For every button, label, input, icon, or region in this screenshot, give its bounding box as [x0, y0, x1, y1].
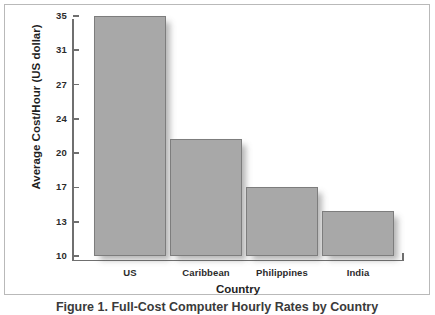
y-axis-tick	[73, 49, 79, 51]
figure-root: 3531272420171310 USCaribbeanPhilippinesI…	[0, 0, 435, 315]
y-axis-tick-label-text: 35	[39, 10, 67, 21]
y-axis-tick-label-text: 20	[39, 147, 67, 158]
y-axis-title: Average Cost/Hour (US dollar)	[30, 2, 42, 212]
y-axis-tick-label: 13	[35, 216, 67, 228]
y-axis-tick	[73, 118, 79, 120]
x-axis-line	[72, 260, 404, 262]
y-axis-tick-label-text: 27	[39, 79, 67, 90]
y-axis-tick-label: 10	[35, 250, 67, 262]
y-axis-tick	[73, 152, 79, 154]
x-axis-title: Country	[73, 283, 403, 295]
y-axis-line	[72, 19, 74, 261]
y-axis-tick-label-text: 24	[39, 113, 67, 124]
y-axis-tick	[73, 255, 79, 257]
figure-caption: Figure 1. Full-Cost Computer Hourly Rate…	[4, 300, 430, 314]
y-axis-tick-label-text: 31	[39, 44, 67, 55]
x-axis-tick-label: India	[308, 267, 408, 278]
y-axis-tick-label-text: 13	[39, 216, 67, 227]
y-axis-tick-label-text: 10	[39, 250, 67, 261]
bar	[246, 187, 318, 256]
x-axis-end-cap	[402, 253, 404, 260]
bar	[94, 16, 166, 256]
y-axis-tick	[73, 221, 79, 223]
y-axis-tick	[73, 15, 79, 17]
y-axis-tick	[73, 84, 79, 86]
figure-frame: 3531272420171310 USCaribbeanPhilippinesI…	[4, 4, 430, 295]
y-axis-tick	[73, 187, 79, 189]
bar	[170, 139, 242, 256]
y-axis-tick-label-text: 17	[39, 181, 67, 192]
bar	[322, 211, 394, 256]
